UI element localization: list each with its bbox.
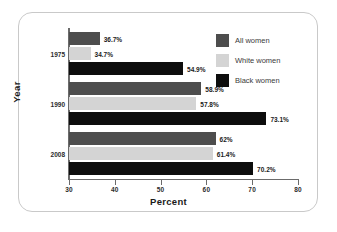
x-axis-tick-label: 30	[65, 186, 73, 193]
bar-value-label: 57.8%	[200, 100, 218, 107]
x-axis-line	[68, 179, 299, 180]
chart-figure: 36.7%34.7%54.9%58.9%57.8%73.1%62%61.4%70…	[0, 0, 337, 232]
bar-value-label: 62%	[220, 135, 233, 142]
bar	[69, 112, 266, 125]
legend-label: White women	[235, 56, 280, 65]
bar-value-label: 70.2%	[257, 165, 275, 172]
x-axis-tick	[206, 180, 207, 185]
bar-value-label: 73.1%	[270, 115, 288, 122]
x-axis-tick-label: 70	[248, 186, 256, 193]
bar-value-label: 54.9%	[187, 65, 205, 72]
x-axis-tick	[69, 180, 70, 185]
y-axis-tick-label: 1990	[51, 100, 65, 107]
x-axis-tick-label: 50	[157, 186, 165, 193]
legend-item: All women	[216, 32, 280, 49]
legend-swatch	[216, 74, 229, 87]
x-axis-tick-label: 40	[111, 186, 119, 193]
y-axis-tick-label: 2008	[51, 150, 65, 157]
x-axis-title: Percent	[0, 196, 337, 207]
legend-label: All women	[235, 36, 270, 45]
legend-swatch	[216, 54, 229, 67]
x-axis-tick	[298, 180, 299, 185]
x-axis-tick	[161, 180, 162, 185]
legend-item: White women	[216, 52, 280, 69]
bar	[69, 97, 196, 110]
x-axis-tick-label: 60	[203, 186, 211, 193]
bar	[69, 147, 213, 160]
chart-legend: All womenWhite womenBlack women	[216, 32, 280, 92]
bar	[69, 132, 216, 145]
y-axis-title: Year	[11, 81, 22, 103]
bar-value-label: 34.7%	[95, 50, 113, 57]
bar-value-label: 36.7%	[104, 35, 122, 42]
bar	[69, 32, 100, 45]
x-axis-tick-label: 80	[294, 186, 302, 193]
bar	[69, 62, 183, 75]
legend-label: Black women	[235, 76, 280, 85]
y-axis-tick-label: 1975	[51, 50, 65, 57]
bar	[69, 162, 253, 175]
x-axis-tick	[115, 180, 116, 185]
legend-item: Black women	[216, 72, 280, 89]
x-axis-tick	[252, 180, 253, 185]
bar	[69, 82, 201, 95]
bar-value-label: 61.4%	[217, 150, 235, 157]
legend-swatch	[216, 34, 229, 47]
bar	[69, 47, 91, 60]
